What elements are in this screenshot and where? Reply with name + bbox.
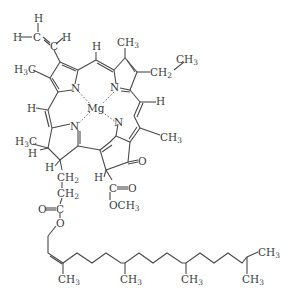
- ch2-ethyl: CH2: [150, 66, 172, 80]
- meso-h-left: H: [27, 102, 36, 114]
- h-ring-d-1: H: [28, 147, 37, 159]
- vinyl-h-right: H: [62, 31, 71, 43]
- ester-o-double: O: [38, 203, 47, 215]
- atom-labels: H H C C H H3C H CH3 CH2 CH3 N N N N Mg H…: [13, 12, 280, 287]
- meso-h-right: H: [156, 95, 165, 107]
- nitrogen-3: N: [114, 116, 123, 128]
- nitrogen-2: N: [110, 81, 119, 93]
- ch3-ring-b: CH3: [117, 36, 139, 50]
- ketone-oxygen: O: [138, 155, 147, 167]
- methoxy: OCH3: [109, 199, 140, 213]
- structure-svg: H H C C H H3C H CH3 CH2 CH3 N N N N Mg H…: [0, 0, 299, 304]
- ester-carbon: C: [56, 203, 64, 215]
- h-ring-e: H: [94, 171, 103, 183]
- nitrogen-4: N: [70, 120, 79, 132]
- ch3-ethyl: CH3: [176, 53, 198, 67]
- phytyl-ch3-2: CH3: [120, 273, 142, 287]
- nitrogen-1: N: [71, 82, 80, 94]
- carbonyl-oxygen: O: [128, 182, 137, 194]
- phytyl-ch3-4: CH3: [242, 273, 264, 287]
- ch2-a: CH2: [57, 171, 79, 185]
- h3c-ring-a: H3C: [14, 63, 36, 77]
- phytyl-ch3-5: CH3: [258, 246, 280, 260]
- vinyl-c2: C: [50, 40, 58, 52]
- ch3-ring-c: CH3: [160, 131, 182, 145]
- h-ring-d-2: H: [45, 161, 54, 173]
- chlorophyll-structure-diagram: H H C C H H3C H CH3 CH2 CH3 N N N N Mg H…: [0, 0, 299, 304]
- phytyl-ch3-1: CH3: [58, 273, 80, 287]
- ch2-b: CH2: [57, 187, 79, 201]
- vinyl-h-left: H: [13, 31, 22, 43]
- vinyl-h-top: H: [34, 12, 43, 24]
- bonds: [21, 23, 258, 274]
- phytyl-ch3-3: CH3: [181, 273, 203, 287]
- magnesium: Mg: [87, 102, 105, 114]
- vinyl-c1: C: [33, 31, 41, 43]
- ester-oxygen: O: [56, 217, 65, 229]
- carbonyl-carbon: C: [109, 182, 117, 194]
- meso-h-top: H: [92, 40, 101, 52]
